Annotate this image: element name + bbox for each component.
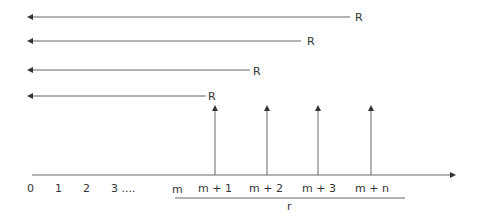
r-span-label: r: [287, 200, 292, 213]
axis-label-m3: m + 3: [302, 182, 336, 195]
axis-label-m1: m + 1: [198, 182, 232, 195]
arrow-label-4: R: [208, 90, 216, 103]
axis-label-3: 3 ....: [111, 182, 135, 195]
arrow-label-1: R: [355, 11, 363, 24]
axis-label-m: m: [172, 183, 183, 196]
cash-flow-diagram: R R R R 0 1 2 3 .... m m + 1 m + 2 m + 3…: [0, 0, 477, 220]
axis-label-1: 1: [55, 182, 62, 195]
axis-label-2: 2: [83, 182, 90, 195]
axis-label-mn: m + n: [355, 182, 389, 195]
axis-label-m2: m + 2: [249, 182, 283, 195]
axis-labels: 0 1 2 3 .... m m + 1 m + 2 m + 3 m + n: [27, 182, 389, 196]
up-arrows: [215, 108, 371, 175]
left-arrows: R R R R: [30, 11, 363, 103]
arrow-label-3: R: [253, 65, 261, 78]
axis-label-0: 0: [27, 182, 34, 195]
arrow-label-2: R: [307, 35, 315, 48]
